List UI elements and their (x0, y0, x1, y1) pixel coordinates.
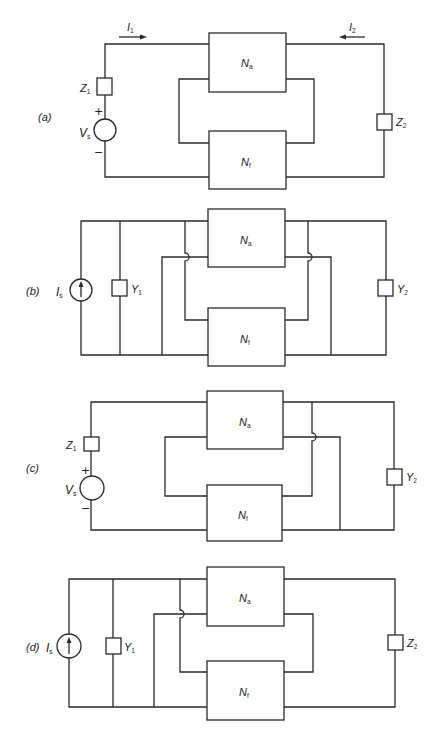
panel-c: (c) Z1 + − Vs Y2 Na Nf (26, 391, 417, 541)
input-bottom-wire (91, 500, 207, 530)
z1-impedance (97, 78, 112, 95)
z2-label: Z2 (406, 637, 418, 650)
y1-label: Y1 (131, 283, 142, 296)
plus-sign: + (94, 105, 103, 118)
output-bottom-wire (284, 650, 395, 707)
y1-admittance (112, 280, 127, 296)
minus-sign: − (94, 146, 103, 159)
minus-sign: − (81, 502, 90, 515)
input-top-wire (105, 44, 209, 78)
panel-a-label: (a) (38, 111, 52, 123)
input-top-wire (69, 579, 207, 634)
voltage-source-icon (94, 119, 116, 141)
input-top-wire (81, 221, 208, 279)
z1-label: Z1 (65, 439, 77, 452)
output-top-wire (284, 579, 395, 635)
arrow-left-icon (339, 35, 346, 40)
arrow-right-icon (140, 35, 147, 40)
is-label: Is (56, 285, 63, 299)
y2-label: Y2 (397, 283, 408, 296)
y1-admittance (106, 638, 121, 654)
output-bottom-wire (285, 296, 386, 355)
input-bottom-wire (69, 658, 207, 707)
is-label: Is (46, 641, 53, 655)
panel-d-label: (d) (26, 641, 40, 653)
vs-label: Vs (79, 126, 91, 140)
input-bottom-wire (81, 301, 208, 355)
input-crossover-wire (185, 221, 208, 320)
output-bottom-wire (282, 485, 394, 530)
panel-d: (d) Is Y1 Z2 Na Nf (26, 567, 418, 720)
output-series-link (286, 79, 314, 143)
current-arrow-i2: I2 (339, 21, 365, 40)
output-series-link (284, 614, 313, 672)
output-top-wire (283, 402, 394, 469)
feedback-configurations-diagram: (a) Z1 + − Vs Z2 I1 I2 (0, 0, 440, 732)
input-series-link (165, 437, 207, 496)
panel-a: (a) Z1 + − Vs Z2 I1 I2 (38, 21, 407, 189)
input-crossover-wire (180, 579, 207, 672)
z2-impedance (388, 635, 403, 650)
input-series-link (179, 79, 209, 143)
i2-label: I2 (349, 21, 356, 34)
i1-label: I1 (127, 21, 134, 34)
output-crossover-wire (285, 221, 312, 320)
panel-b-label: (b) (26, 285, 40, 297)
panel-b: (b) Is Y1 Y2 Na Nf (26, 209, 408, 366)
input-top-wire (91, 402, 207, 437)
z1-label: Z1 (79, 82, 91, 95)
y2-admittance (387, 469, 402, 485)
z2-label: Z2 (395, 116, 407, 129)
voltage-source-icon (80, 476, 104, 500)
y2-label: Y2 (406, 471, 417, 484)
z1-impedance (84, 437, 99, 451)
y1-label: Y1 (124, 641, 135, 654)
input-bottom-wire (105, 141, 209, 177)
z2-impedance (377, 114, 392, 130)
output-crossover-wire (282, 402, 316, 496)
output-bottom-wire (286, 130, 384, 177)
y2-admittance (378, 280, 393, 296)
panel-c-label: (c) (26, 462, 39, 474)
output-top-wire (285, 221, 386, 280)
current-arrow-i1: I1 (119, 21, 147, 40)
vs-label: Vs (65, 483, 77, 497)
plus-sign: + (81, 464, 90, 477)
